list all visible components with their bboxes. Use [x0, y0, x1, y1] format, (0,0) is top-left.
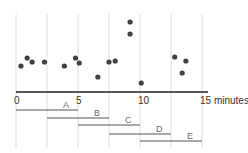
window-label: E	[187, 131, 193, 141]
data-point	[106, 59, 111, 64]
data-point	[95, 74, 100, 79]
data-point	[77, 60, 82, 65]
window-label: C	[125, 115, 132, 125]
data-point	[183, 58, 188, 63]
data-point	[73, 55, 78, 60]
data-point	[42, 59, 47, 64]
x-tick-label: 10	[138, 95, 150, 106]
x-tick-label: 15 minutes	[200, 95, 248, 106]
data-point	[172, 54, 177, 59]
x-tick-label: 5	[76, 95, 82, 106]
data-point	[139, 80, 144, 85]
window-label: D	[156, 124, 163, 134]
data-point	[25, 55, 30, 60]
sliding-window-chart: 051015 minutes ABCDE	[0, 0, 248, 153]
data-point	[180, 70, 185, 75]
data-point	[30, 59, 35, 64]
x-tick-label: 0	[14, 95, 20, 106]
data-points	[18, 19, 188, 85]
data-point	[127, 31, 132, 36]
vertical-gridlines	[16, 14, 202, 148]
data-point	[113, 58, 118, 63]
data-point	[18, 63, 23, 68]
data-point	[62, 63, 67, 68]
window-label: B	[94, 108, 100, 118]
x-tick-labels: 051015 minutes	[14, 95, 248, 106]
window-label: A	[63, 100, 69, 110]
data-point	[127, 19, 132, 24]
